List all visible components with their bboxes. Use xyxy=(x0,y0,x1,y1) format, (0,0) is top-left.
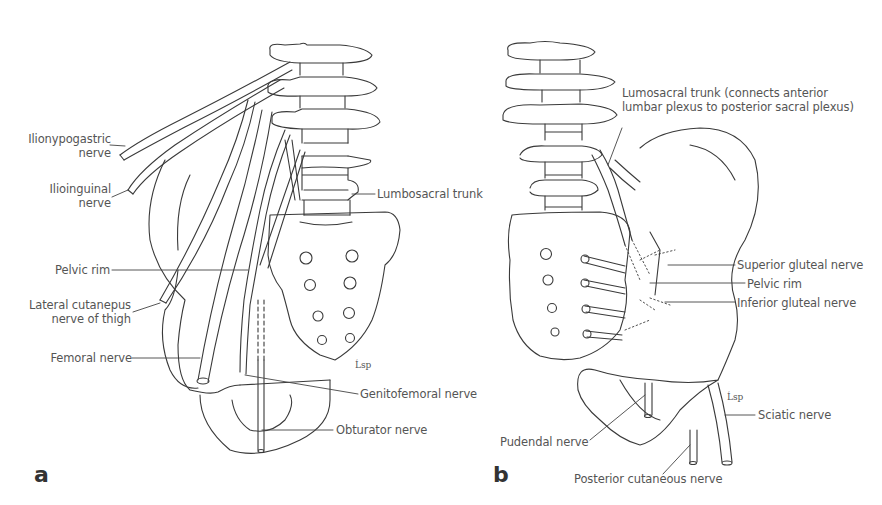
label-ilioinguinal-line1: Ilioinguinal xyxy=(8,182,111,196)
sacrum-a xyxy=(268,212,400,360)
label-iliohypogastric-line1: Ilionypogastric xyxy=(8,132,111,146)
label-iliohypogastric-line2: nerve xyxy=(8,146,111,160)
panel-letter-b: b xyxy=(493,462,509,487)
label-pelvic-rim-a: Pelvic rim xyxy=(8,263,110,277)
label-inferior-gluteal: Inferior gluteal nerve xyxy=(737,296,856,310)
label-superior-gluteal: Superior gluteal nerve xyxy=(737,258,863,272)
panel-a-drawing xyxy=(110,43,400,453)
panel-letter-a: a xyxy=(34,462,49,487)
label-lateral-cutaneous-line2: nerve of thigh xyxy=(8,312,131,326)
label-sciatic: Sciatic nerve xyxy=(758,408,831,422)
anatomy-illustration xyxy=(0,0,882,505)
label-pudendal: Pudendal nerve xyxy=(500,435,588,449)
sacrum-b xyxy=(508,212,630,360)
artist-signature-b: Ĺsp xyxy=(727,392,743,402)
nerves-a xyxy=(120,62,305,453)
label-ilioinguinal: Ilioinguinal nerve xyxy=(8,182,111,210)
label-lumbosacral-trunk: Lumbosacral trunk xyxy=(377,187,483,201)
artist-signature-a: Ĺsp xyxy=(355,360,371,370)
label-femoral: Femoral nerve xyxy=(8,351,132,365)
label-lumosacral-trunk-b: Lumosacral trunk (connects anterior lumb… xyxy=(622,86,854,114)
label-pelvic-rim-b: Pelvic rim xyxy=(747,277,802,291)
label-genitofemoral: Genitofemoral nerve xyxy=(360,387,477,401)
lumbosacral-plexus-figure: Ilionypogastric nerve Ilioinguinal nerve… xyxy=(0,0,882,505)
label-posterior-cutaneous: Posterior cutaneous nerve xyxy=(574,472,722,486)
label-iliohypogastric: Ilionypogastric nerve xyxy=(8,132,111,160)
label-lateral-cutaneous-line1: Lateral cutanepus xyxy=(8,298,131,312)
label-obturator: Obturator nerve xyxy=(336,423,427,437)
label-lumosacral-line1: Lumosacral trunk (connects anterior xyxy=(622,86,854,100)
label-ilioinguinal-line2: nerve xyxy=(8,196,111,210)
label-lateral-cutaneous: Lateral cutanepus nerve of thigh xyxy=(8,298,131,326)
lumbar-spine-a xyxy=(268,43,380,225)
nerves-b xyxy=(592,150,732,465)
lumbar-spine-b xyxy=(503,42,617,211)
label-lumosacral-line2: lumbar plexus to posterior sacral plexus… xyxy=(622,100,854,114)
